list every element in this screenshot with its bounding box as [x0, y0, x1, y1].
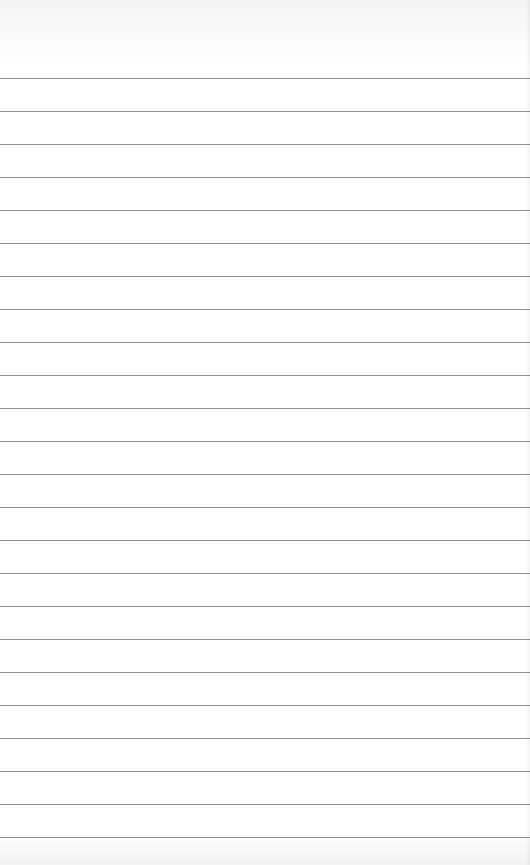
ruled-line	[0, 111, 530, 112]
ruled-line	[0, 276, 530, 277]
ruled-line	[0, 441, 530, 442]
ruled-line	[0, 540, 530, 541]
ruled-line	[0, 144, 530, 145]
ruled-line	[0, 771, 530, 772]
ruled-line	[0, 606, 530, 607]
ruled-line	[0, 210, 530, 211]
ruled-line	[0, 342, 530, 343]
ruled-line	[0, 573, 530, 574]
ruled-line	[0, 375, 530, 376]
ruled-line	[0, 243, 530, 244]
ruled-line	[0, 672, 530, 673]
ruled-line	[0, 639, 530, 640]
ruled-line	[0, 309, 530, 310]
ruled-line	[0, 507, 530, 508]
ruled-line	[0, 474, 530, 475]
lined-paper	[0, 0, 530, 865]
ruled-line	[0, 177, 530, 178]
ruled-line	[0, 705, 530, 706]
ruled-line	[0, 804, 530, 805]
ruled-line	[0, 837, 530, 838]
ruled-line	[0, 78, 530, 79]
paper-edge-shadow	[526, 0, 530, 865]
ruled-line	[0, 408, 530, 409]
ruled-line	[0, 738, 530, 739]
